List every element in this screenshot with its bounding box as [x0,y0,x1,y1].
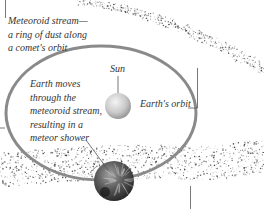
earth-note-line: through the [30,91,102,105]
meteor-shower-diagram: Meteoroid stream— a ring of dust along a… [0,0,264,209]
stream-label-line: Meteoroid stream— [8,14,88,28]
sun-sphere [105,93,131,119]
stream-label: Meteoroid stream— a ring of dust along a… [8,14,88,55]
stream-label-line: a comet's orbit [8,41,88,55]
earth-orbit-label: Earth's orbit [140,97,191,111]
stream-label-line: a ring of dust along [8,28,88,42]
sun-label: Sun [110,62,125,76]
earth-sphere [94,161,137,201]
earth-note-line: resulting in a [30,118,102,132]
earth-note-line: Earth moves [30,77,102,91]
earth-note-line: meteor shower [30,131,102,145]
earth-note-label: Earth moves through the meteoroid stream… [30,77,102,145]
earth-note-line: meteoroid stream, [30,104,102,118]
